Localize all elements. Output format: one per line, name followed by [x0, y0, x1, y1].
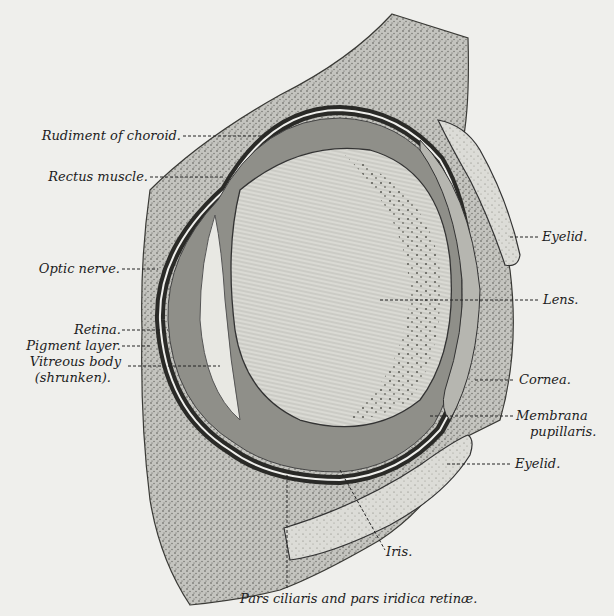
label-pars-ciliaris: Pars ciliaris and pars iridica retinæ.	[240, 592, 477, 606]
label-pigment-layer: Pigment layer.	[26, 339, 121, 353]
label-retina: Retina.	[74, 323, 121, 337]
label-vitreous-body-note: (shrunken).	[35, 371, 111, 385]
lens	[231, 148, 451, 426]
label-eyelid-upper: Eyelid.	[542, 230, 587, 244]
label-rectus-muscle: Rectus muscle.	[48, 170, 148, 184]
label-optic-nerve: Optic nerve.	[39, 262, 120, 276]
label-membrana-pupillaris-2: pupillaris.	[530, 425, 596, 439]
eye-section-illustration	[0, 0, 614, 616]
label-membrana-pupillaris: Membrana	[516, 409, 588, 423]
label-iris: Iris.	[386, 545, 412, 559]
label-eyelid-lower: Eyelid.	[515, 457, 560, 471]
label-cornea: Cornea.	[519, 373, 571, 387]
label-rudiment-of-choroid: Rudiment of choroid.	[42, 129, 181, 143]
label-lens: Lens.	[543, 293, 579, 307]
label-vitreous-body: Vitreous body	[30, 355, 121, 369]
